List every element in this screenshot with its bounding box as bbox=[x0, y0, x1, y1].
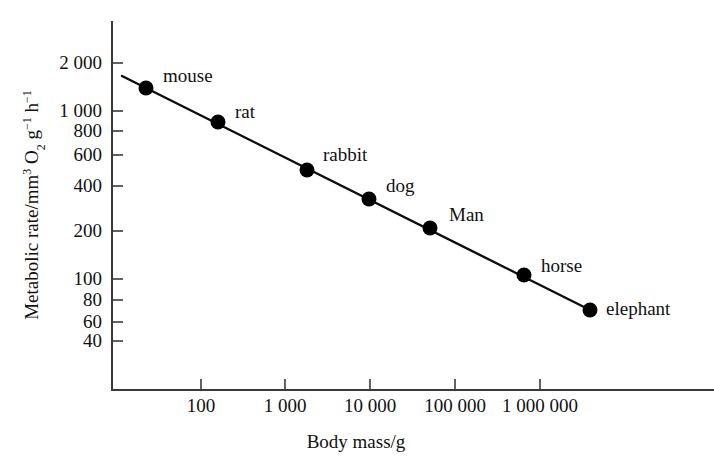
data-points bbox=[139, 81, 598, 318]
x-axis-tick-label: 1 000 bbox=[264, 395, 307, 416]
y-axis-tick-label: 40 bbox=[83, 330, 102, 351]
y-axis-tick-label: 600 bbox=[74, 144, 103, 165]
x-axis-tick-label: 1 000 000 bbox=[502, 395, 578, 416]
data-point-label: rat bbox=[235, 101, 256, 122]
y-axis-tick-label: 2 000 bbox=[59, 52, 102, 73]
data-point bbox=[211, 115, 226, 130]
data-point-label: Man bbox=[449, 204, 484, 225]
data-point bbox=[583, 303, 598, 318]
y-axis-tick-label: 100 bbox=[74, 268, 103, 289]
data-point bbox=[300, 163, 315, 178]
data-point-label: elephant bbox=[606, 298, 671, 319]
data-point bbox=[362, 192, 377, 207]
y-axis-tick-label: 400 bbox=[74, 175, 103, 196]
data-point-label: mouse bbox=[163, 65, 213, 86]
y-axis-tick-label: 800 bbox=[74, 120, 103, 141]
data-point-label: rabbit bbox=[323, 144, 368, 165]
data-point-label: dog bbox=[386, 175, 415, 196]
y-axis-title: Metabolic rate/mm3 O2 g−1 h−1 bbox=[20, 90, 48, 320]
y-axis-tick-label: 80 bbox=[83, 289, 102, 310]
y-axis-ticks bbox=[112, 63, 123, 341]
data-point-labels: mouseratrabbitdogManhorseelephant bbox=[163, 65, 671, 319]
x-axis-tick-labels: 1001 00010 000100 0001 000 000 bbox=[187, 395, 578, 416]
data-point bbox=[423, 221, 438, 236]
y-axis-tick-label: 1 000 bbox=[59, 100, 102, 121]
y-axis-tick-labels: 2 0001 000800600400200100806040 bbox=[59, 52, 102, 351]
y-axis-tick-label: 60 bbox=[83, 311, 102, 332]
data-point bbox=[517, 268, 532, 283]
data-point-label: horse bbox=[541, 255, 582, 276]
x-axis-tick-label: 100 bbox=[187, 395, 216, 416]
x-axis-title: Body mass/g bbox=[307, 431, 406, 452]
chart-canvas: 2 0001 000800600400200100806040 1001 000… bbox=[0, 0, 714, 467]
data-point bbox=[139, 81, 154, 96]
metabolic-rate-chart: 2 0001 000800600400200100806040 1001 000… bbox=[0, 0, 714, 467]
x-axis-tick-label: 10 000 bbox=[344, 395, 396, 416]
data-series-group: mouseratrabbitdogManhorseelephant bbox=[122, 65, 671, 319]
y-axis-tick-label: 200 bbox=[74, 220, 103, 241]
x-axis-ticks bbox=[201, 379, 540, 390]
x-axis-tick-label: 100 000 bbox=[424, 395, 486, 416]
